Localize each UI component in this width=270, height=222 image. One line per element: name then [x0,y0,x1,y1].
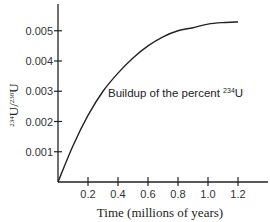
y-tick-label: 0.003 [25,85,53,97]
x-tick-label: 0.4 [110,188,125,200]
chart: 0.0010.0020.0030.0040.005 0.20.40.60.81.… [0,0,270,222]
y-ticks: 0.0010.0020.0030.0040.005 [25,25,62,158]
x-tick-label: 0.8 [170,188,185,200]
x-ticks: 0.20.40.60.81.01.2 [80,177,245,200]
x-tick-label: 1.0 [200,188,215,200]
x-tick-label: 0.6 [140,188,155,200]
x-tick-label: 1.2 [230,188,245,200]
y-tick-label: 0.002 [25,116,53,128]
y-tick-label: 0.004 [25,55,53,67]
y-tick-label: 0.001 [25,146,53,158]
x-axis-title: Time (millions of years) [97,205,223,220]
data-curve [58,22,238,182]
x-tick-label: 0.2 [80,188,95,200]
y-tick-label: 0.005 [25,25,53,37]
y-axis-title: 234U/238U [6,83,21,127]
annotation: Buildup of the percent 234U [108,87,243,99]
